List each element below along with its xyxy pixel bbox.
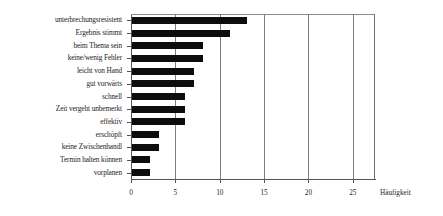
category-label: effektiv <box>0 118 122 126</box>
y-tick-mark <box>127 109 131 110</box>
gridline <box>220 14 221 179</box>
y-tick-mark <box>127 122 131 123</box>
y-tick-mark <box>127 97 131 98</box>
bar <box>132 17 247 24</box>
y-tick-mark <box>127 135 131 136</box>
plot-frame-top <box>131 14 375 15</box>
category-label: keine Zwischenhandl <box>0 143 122 151</box>
category-label: unterbrechungsresistent <box>0 16 122 24</box>
bar <box>132 55 203 62</box>
bar-chart: unterbrechungsresistentErgebnis stimmtbe… <box>0 0 443 216</box>
y-tick-mark <box>127 71 131 72</box>
bar <box>132 42 203 49</box>
x-tick-label: 10 <box>208 189 232 197</box>
x-tick-label: 25 <box>341 189 365 197</box>
category-label: Zeit vergeht unbemerkt <box>0 105 122 113</box>
plot-area <box>131 14 375 179</box>
x-tick-label: 15 <box>252 189 276 197</box>
bar <box>132 93 185 100</box>
category-label: gut vorwärts <box>0 80 122 88</box>
x-tick-mark <box>175 179 176 183</box>
x-tick-mark <box>220 179 221 183</box>
y-tick-mark <box>127 147 131 148</box>
x-tick-mark <box>353 179 354 183</box>
bar <box>132 169 150 176</box>
category-label: leicht von Hand <box>0 67 122 75</box>
y-tick-mark <box>127 160 131 161</box>
x-axis-title: Häufigkeit <box>380 189 411 197</box>
gridline <box>264 14 265 179</box>
bar <box>132 156 150 163</box>
gridline <box>308 14 309 179</box>
bar <box>132 131 159 138</box>
y-tick-mark <box>127 46 131 47</box>
x-tick-mark <box>264 179 265 183</box>
bar <box>132 118 185 125</box>
category-axis-labels: unterbrechungsresistentErgebnis stimmtbe… <box>0 14 126 179</box>
x-tick-label: 0 <box>119 189 143 197</box>
y-tick-mark <box>127 173 131 174</box>
y-tick-mark <box>127 84 131 85</box>
bar <box>132 68 194 75</box>
bar <box>132 144 159 151</box>
bar <box>132 30 230 37</box>
category-label: keine/wenig Fehler <box>0 54 122 62</box>
category-label: beim Thema sein <box>0 42 122 50</box>
x-tick-mark <box>131 179 132 183</box>
bar <box>132 106 185 113</box>
category-label: Termin halten können <box>0 156 122 164</box>
y-tick-mark <box>127 33 131 34</box>
category-label: erschöpft <box>0 131 122 139</box>
x-tick-label: 20 <box>296 189 320 197</box>
y-tick-mark <box>127 20 131 21</box>
category-label: Ergebnis stimmt <box>0 29 122 37</box>
category-label: vorplanen <box>0 169 122 177</box>
x-tick-mark <box>308 179 309 183</box>
x-axis-line <box>131 179 376 180</box>
y-tick-mark <box>127 58 131 59</box>
bar <box>132 80 194 87</box>
x-tick-label: 5 <box>163 189 187 197</box>
gridline <box>353 14 354 179</box>
category-label: schnell <box>0 93 122 101</box>
plot-frame-right <box>374 14 375 179</box>
